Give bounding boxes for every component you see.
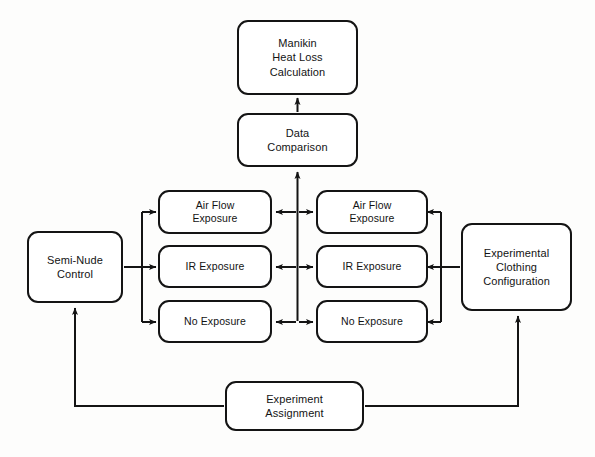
node-label: Manikin Heat Loss Calculation: [270, 36, 326, 78]
flowchart-canvas: Manikin Heat Loss Calculation Data Compa…: [0, 0, 595, 457]
node-label: Air Flow Exposure: [192, 199, 237, 226]
node-left-no-exposure[interactable]: No Exposure: [158, 300, 272, 343]
node-label: Experiment Assignment: [265, 392, 323, 420]
node-experiment-assignment[interactable]: Experiment Assignment: [225, 381, 364, 431]
node-label: Semi-Nude Control: [47, 253, 103, 281]
node-label: IR Exposure: [343, 260, 402, 273]
node-manikin-heat-loss-calculation[interactable]: Manikin Heat Loss Calculation: [237, 20, 358, 95]
node-right-air-flow-exposure[interactable]: Air Flow Exposure: [316, 190, 428, 234]
node-label: Air Flow Exposure: [349, 199, 394, 226]
node-left-ir-exposure[interactable]: IR Exposure: [158, 245, 272, 288]
node-data-comparison[interactable]: Data Comparison: [237, 113, 358, 167]
node-right-no-exposure[interactable]: No Exposure: [316, 300, 428, 343]
node-label: No Exposure: [184, 315, 246, 328]
node-label: Experimental Clothing Configuration: [483, 246, 550, 288]
node-label: Data Comparison: [267, 126, 327, 154]
node-right-ir-exposure[interactable]: IR Exposure: [316, 245, 428, 288]
node-left-air-flow-exposure[interactable]: Air Flow Exposure: [158, 190, 272, 234]
node-label: IR Exposure: [186, 260, 245, 273]
node-semi-nude-control[interactable]: Semi-Nude Control: [27, 231, 123, 303]
node-label: No Exposure: [341, 315, 403, 328]
node-experimental-clothing-configuration[interactable]: Experimental Clothing Configuration: [461, 223, 572, 311]
